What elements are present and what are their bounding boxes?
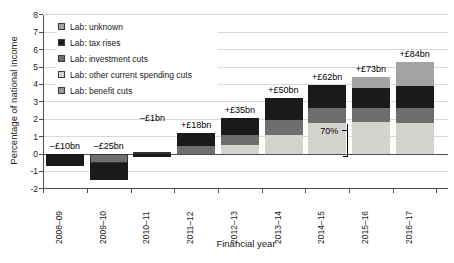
legend-item-unknown: Lab: unknown — [58, 22, 218, 32]
bar-segment-investment_cuts — [221, 135, 259, 145]
legend-item-benefit_cuts: Lab: benefit cuts — [58, 86, 218, 96]
bar-segment-tax_rises — [90, 163, 128, 180]
bar-segment-tax_rises — [46, 154, 84, 166]
bar-segment-tax_rises — [133, 154, 171, 157]
x-axis-title: Financial year — [190, 238, 302, 249]
bar-value-label: +£18bn — [170, 120, 222, 131]
x-axis-tick — [131, 189, 132, 193]
y-axis-title: Percentage of national income — [8, 31, 19, 171]
bar-value-label: –£25bn — [83, 141, 135, 152]
bar-segment-tax_rises — [308, 85, 346, 108]
bar-segment-investment_cuts — [177, 146, 215, 154]
bar-segment-investment_cuts — [308, 108, 346, 123]
annotation-70-percent: 70% — [320, 126, 338, 136]
legend-item-other_current_spending_cuts: Lab: other current spending cuts — [58, 70, 218, 80]
bar-segment-unknown — [396, 62, 434, 87]
x-axis-tick — [305, 189, 306, 193]
legend-label: Lab: benefit cuts — [70, 86, 132, 96]
x-axis-tick — [393, 189, 394, 193]
legend-label: Lab: tax rises — [70, 38, 121, 48]
y-tick-label: -2 — [14, 184, 38, 194]
y-axis-line — [43, 15, 44, 189]
bar-segment-other_current_spending_cuts — [352, 122, 390, 154]
legend-swatch-icon — [58, 55, 65, 62]
gridline — [44, 14, 448, 15]
x-category-label: 2015–16 — [360, 211, 370, 244]
bar-segment-tax_rises — [265, 98, 303, 120]
bar-segment-tax_rises — [221, 118, 259, 135]
legend-label: Lab: other current spending cuts — [70, 70, 192, 80]
stacked-bar-chart-figure: 876543210-1-2–£10bn2008–09–£25bn2009–10–… — [0, 0, 454, 263]
legend-item-investment_cuts: Lab: investment cuts — [58, 54, 218, 64]
legend-label: Lab: investment cuts — [70, 54, 148, 64]
chart-legend: Lab: unknownLab: tax risesLab: investmen… — [56, 20, 218, 98]
bar-value-label: +£35bn — [214, 105, 266, 116]
x-category-label: 2008–09 — [54, 211, 64, 244]
bar-segment-tax_rises — [352, 88, 390, 108]
legend-swatch-icon — [58, 39, 65, 46]
bar-segment-investment_cuts — [90, 154, 128, 163]
bar-segment-unknown — [352, 77, 390, 88]
x-axis-tick — [349, 189, 350, 193]
x-category-label: 2009–10 — [98, 211, 108, 244]
bar-segment-investment_cuts — [352, 108, 390, 121]
legend-label: Lab: unknown — [70, 22, 123, 32]
x-axis-line — [44, 188, 448, 189]
annotation-vertical-line — [347, 124, 348, 157]
annotation-foot-line — [343, 156, 348, 157]
bar-segment-other_current_spending_cuts — [221, 145, 259, 154]
x-axis-tick — [436, 189, 437, 193]
legend-swatch-icon — [58, 23, 65, 30]
x-axis-tick — [174, 189, 175, 193]
bar-value-label: +£50bn — [258, 85, 310, 96]
bar-segment-tax_rises — [396, 86, 434, 108]
bar-segment-investment_cuts — [265, 120, 303, 135]
bar-segment-tax_rises — [177, 133, 215, 146]
x-category-label: 2010–11 — [141, 212, 151, 244]
legend-swatch-icon — [58, 87, 65, 94]
x-axis-tick — [43, 189, 44, 193]
bar-segment-other_current_spending_cuts — [265, 135, 303, 154]
x-axis-tick — [218, 189, 219, 193]
bar-value-label: +£73bn — [345, 64, 397, 75]
x-axis-tick — [262, 189, 263, 193]
legend-swatch-icon — [58, 71, 65, 78]
x-category-label: 2014–15 — [316, 211, 326, 244]
x-axis-tick — [87, 189, 88, 193]
legend-item-tax_rises: Lab: tax rises — [58, 38, 218, 48]
bar-value-label: +£84bn — [389, 49, 441, 60]
x-category-label: 2016–17 — [404, 211, 414, 244]
y-tick-label: 8 — [14, 10, 38, 20]
bar-segment-other_current_spending_cuts — [396, 123, 434, 154]
bar-segment-investment_cuts — [396, 108, 434, 123]
